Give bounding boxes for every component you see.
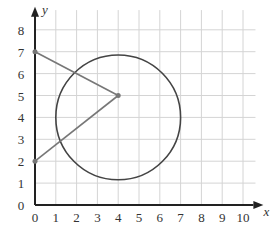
svg-text:0: 0 <box>18 198 25 213</box>
svg-text:6: 6 <box>157 210 164 225</box>
svg-text:9: 9 <box>219 210 226 225</box>
svg-text:8: 8 <box>198 210 205 225</box>
grid <box>35 10 255 205</box>
svg-text:1: 1 <box>53 210 60 225</box>
svg-text:3: 3 <box>18 132 25 147</box>
svg-text:5: 5 <box>136 210 143 225</box>
svg-text:3: 3 <box>94 210 101 225</box>
svg-text:5: 5 <box>18 89 25 104</box>
svg-text:2: 2 <box>18 154 25 169</box>
axes <box>31 7 263 209</box>
svg-text:1: 1 <box>18 176 25 191</box>
svg-text:8: 8 <box>18 23 25 38</box>
svg-text:7: 7 <box>18 45 25 60</box>
svg-text:y: y <box>40 2 48 17</box>
svg-text:4: 4 <box>115 210 122 225</box>
svg-text:6: 6 <box>18 67 25 82</box>
svg-text:7: 7 <box>177 210 184 225</box>
svg-text:4: 4 <box>18 110 25 125</box>
svg-text:x: x <box>262 204 269 219</box>
svg-text:10: 10 <box>237 210 250 225</box>
svg-text:0: 0 <box>32 210 39 225</box>
svg-text:2: 2 <box>73 210 80 225</box>
shapes <box>33 49 181 180</box>
coordinate-plot: 012345678910012345678xy <box>0 0 273 234</box>
